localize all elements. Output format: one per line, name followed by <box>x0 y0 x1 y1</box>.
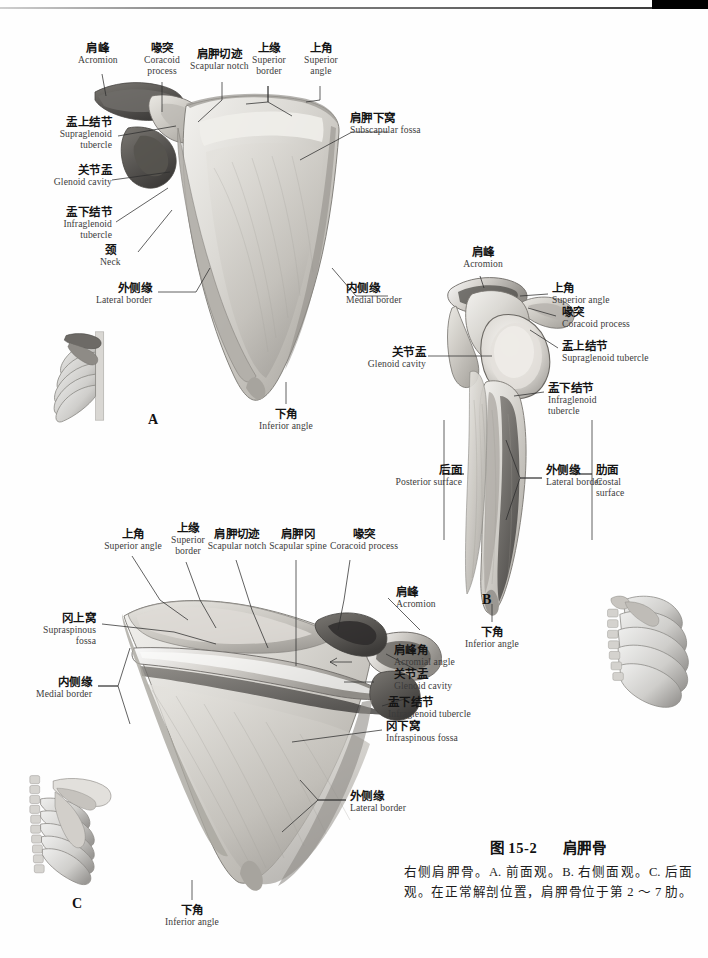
label-a-acromion: 肩峰 Acromion <box>78 42 118 66</box>
label-b-costal-surface: 肋面 Costal surface <box>596 464 666 498</box>
label-c-medial-border: 内侧缘 Medial border <box>14 676 92 700</box>
thorax-inset-c <box>30 776 111 885</box>
label-c-glenoid-cavity: 关节盂 Glenoid cavity <box>394 668 452 692</box>
label-a-superior-angle: 上角 Superior angle <box>286 42 356 76</box>
label-c-infraspinous-fossa: 冈下窝 Infraspinous fossa <box>386 720 458 744</box>
figure-caption-text: 右侧肩胛骨。A. 前面观。B. 右侧面观。C. 后面观。在正常解剖位置，肩胛骨位… <box>404 862 692 903</box>
label-a-lateral-border: 外侧缘 Lateral border <box>66 282 152 306</box>
label-b-coracoid-process: 喙突 Coracoid process <box>562 306 630 330</box>
label-c-scapular-spine: 肩胛冈 Scapular spine <box>268 528 328 552</box>
panel-letter-b: B <box>482 592 491 608</box>
panel-letter-c: C <box>72 896 82 912</box>
label-c-coracoid-process: 喙突 Coracoid process <box>326 528 402 552</box>
figure-caption: 图 15-2 肩胛骨 右侧肩胛骨。A. 前面观。B. 右侧面观。C. 后面观。在… <box>404 836 692 903</box>
label-a-supraglenoid-tubercle: 盂上结节 Supraglenoid tubercle <box>34 116 112 150</box>
label-a-medial-border: 内侧缘 Medial border <box>346 282 402 306</box>
label-a-infraglenoid-tubercle: 盂下结节 Infraglenoid tubercle <box>34 206 112 240</box>
label-b-infraglenoid-tubercle: 盂下结节 Infraglenoid tubercle <box>548 382 597 416</box>
figure-number: 图 15-2 <box>490 840 538 856</box>
label-a-neck: 颈 Neck <box>100 244 121 268</box>
figure-title: 肩胛骨 <box>563 840 607 856</box>
thorax-inset-b <box>608 596 689 707</box>
label-a-subscapular-fossa: 肩胛下窝 Subscapular fossa <box>350 112 421 136</box>
atlas-page: 肩峰 Acromion 喙突 Coracoid process 肩胛切迹 Sca… <box>0 0 708 958</box>
label-b-superior-angle: 上角 Superior angle <box>552 282 610 306</box>
panel-letter-a: A <box>148 412 158 428</box>
label-b-glenoid-cavity: 关节盂 Glenoid cavity <box>348 346 426 370</box>
label-c-superior-border: 上缘 Superior border <box>166 522 210 556</box>
scapula-lateral <box>448 278 575 616</box>
label-c-superior-angle: 上角 Superior angle <box>100 528 166 552</box>
label-c-lateral-border: 外侧缘 Lateral border <box>350 790 406 814</box>
label-a-inferior-angle: 下角 Inferior angle <box>246 408 326 432</box>
label-c-supraspinous-fossa: 冈上窝 Supraspinous fossa <box>18 612 96 646</box>
label-a-coracoid-process: 喙突 Coracoid process <box>127 42 197 76</box>
label-c-acromion: 肩峰 Acromion <box>396 586 436 610</box>
label-b-supraglenoid-tubercle: 盂上结节 Supraglenoid tubercle <box>562 340 649 364</box>
label-b-lateral-border: 外侧缘 Lateral border <box>546 464 602 488</box>
label-c-inferior-angle: 下角 Inferior angle <box>152 904 232 928</box>
scapula-anterior <box>95 83 339 401</box>
label-c-infraglenoid-tubercle: 盂下结节 Infraglenoid tubercle <box>388 696 471 720</box>
thorax-inset-a <box>54 332 104 422</box>
label-b-posterior-surface: 后面 Posterior surface <box>376 464 462 488</box>
label-b-inferior-angle: 下角 Inferior angle <box>452 626 532 650</box>
figure-title-line: 图 15-2 肩胛骨 <box>404 836 692 857</box>
label-c-scapular-notch: 肩胛切迹 Scapular notch <box>206 528 268 552</box>
label-c-acromial-angle: 肩峰角 Acromial angle <box>394 644 455 668</box>
label-b-acromion: 肩峰 Acromion <box>454 246 512 270</box>
label-a-glenoid-cavity: 关节盂 Glenoid cavity <box>34 164 112 188</box>
